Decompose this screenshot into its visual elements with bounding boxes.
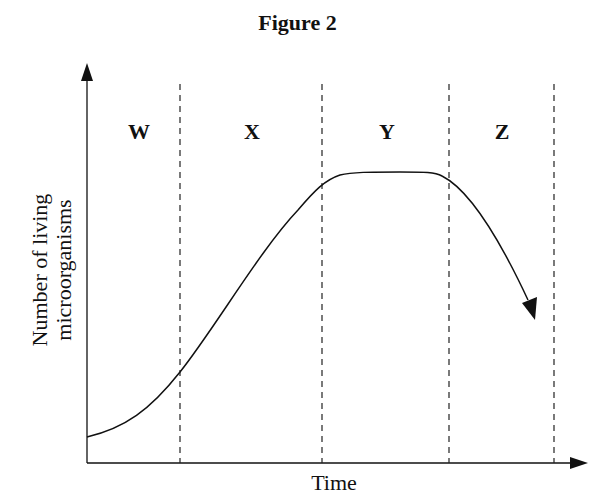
y-axis-label: Number of living microorganisms [28,194,76,347]
x-axis-label: Time [311,470,357,496]
phase-label-y: Y [379,119,395,145]
x-axis-arrow-icon [570,457,588,469]
curve-arrow-icon [522,297,537,320]
y-axis-arrow-icon [81,63,93,81]
y-axis-label-line2: microorganisms [52,194,76,347]
phase-label-z: Z [495,119,510,145]
y-axis-label-line1: Number of living [28,194,52,347]
growth-curve [87,172,528,437]
growth-curve-chart [0,0,595,502]
phase-label-w: W [128,119,150,145]
phase-label-x: X [244,119,260,145]
